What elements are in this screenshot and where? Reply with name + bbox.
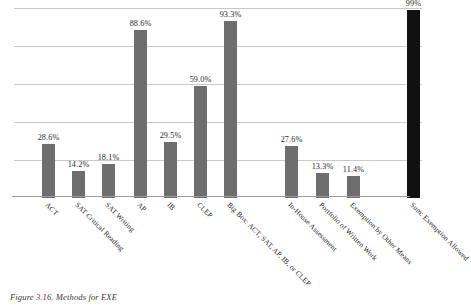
category-label: Portfolio of Written Work: [317, 201, 378, 262]
bar-value-label: 28.6%: [38, 133, 60, 142]
category-label: AP: [135, 201, 147, 213]
x-axis-line: [12, 196, 410, 197]
bar-value-label: 27.6%: [281, 135, 303, 144]
bar-value-label: 59.0%: [190, 75, 212, 84]
bar-slot: 29.5%: [164, 8, 177, 198]
bar: [285, 146, 298, 198]
bar-value-label: 99%: [406, 0, 421, 8]
bar-slot: 88.6%: [134, 8, 147, 198]
figure-caption: Figure 3.16. Methods for EXE: [10, 292, 117, 302]
bar-slot: 27.6%: [285, 8, 298, 198]
bar: [42, 144, 55, 198]
category-label: CLEP: [195, 201, 214, 220]
bar-slot: 59.0%: [194, 8, 207, 198]
category-label: IB: [165, 201, 176, 212]
category-label: Sum: Exemption Allowed: [408, 201, 470, 263]
bar-value-label: 18.1%: [98, 153, 120, 162]
bar-value-label: 11.4%: [343, 165, 364, 174]
bar-value-label: 93.3%: [220, 10, 242, 19]
bar-slot: 28.6%: [42, 8, 55, 198]
category-label: ACT: [43, 201, 59, 217]
bar: [224, 21, 237, 198]
bar-slot: 14.2%: [72, 8, 85, 198]
bar-slot: 99%: [407, 8, 420, 198]
bar-value-label: 13.3%: [312, 162, 334, 171]
bar-slot: 11.4%: [347, 8, 360, 198]
bar-slot: 18.1%: [102, 8, 115, 198]
bar: [347, 176, 360, 198]
category-label: Exemption by Other Means: [348, 201, 413, 266]
bar-value-label: 88.6%: [130, 19, 152, 28]
bar: [316, 173, 329, 198]
bar-slot: 93.3%: [224, 8, 237, 198]
chart-plot-area: 28.6%14.2%18.1%88.6%29.5%59.0%93.3%27.6%…: [14, 8, 422, 198]
bar-value-label: 14.2%: [68, 160, 90, 169]
bar: [164, 142, 177, 198]
bar: [72, 171, 85, 198]
bar-value-label: 29.5%: [160, 131, 182, 140]
bar: [407, 10, 420, 198]
bar-slot: 13.3%: [316, 8, 329, 198]
category-labels-group: ACTSAT Critical ReadingSAT WritingAPIBCL…: [14, 198, 422, 298]
bar: [194, 86, 207, 198]
bar: [134, 30, 147, 198]
bar: [102, 164, 115, 198]
